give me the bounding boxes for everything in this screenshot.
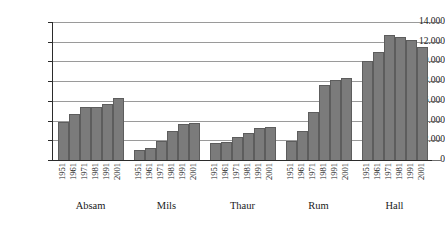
bar	[167, 131, 178, 160]
bar	[91, 107, 102, 160]
bar-group-rum	[286, 22, 352, 160]
bar	[330, 80, 341, 160]
bars	[286, 22, 352, 160]
bar	[58, 122, 69, 160]
bar	[406, 40, 417, 160]
x-axis-tick-label: 1991	[406, 163, 417, 197]
x-axis-tick-label: 1951	[210, 163, 221, 197]
bar	[341, 78, 352, 160]
bar	[113, 98, 124, 160]
x-axis-tick-label: 1951	[134, 163, 145, 197]
y-axis-line	[52, 22, 53, 161]
x-axis-line	[52, 160, 432, 161]
group-label-rum: Rum	[286, 200, 352, 211]
bar	[80, 107, 91, 160]
bar	[384, 35, 395, 160]
x-axis-tick-label: 1971	[232, 163, 243, 197]
x-axis-tick-label: 1981	[243, 163, 254, 197]
bars	[210, 22, 276, 160]
bar	[156, 141, 167, 160]
bar	[69, 114, 80, 160]
x-axis-tick-label: 1991	[254, 163, 265, 197]
x-axis-tick-label: 1981	[319, 163, 330, 197]
gridline-stub	[432, 140, 441, 141]
x-axis-tick-labels: 195119611971198119912001	[134, 163, 200, 197]
bar-group-hall	[362, 22, 428, 160]
bar	[265, 127, 276, 161]
x-axis-tick-label: 1961	[145, 163, 156, 197]
bar	[221, 142, 232, 160]
gridline-stub	[432, 22, 441, 23]
bar	[102, 104, 113, 160]
group-label-hall: Hall	[362, 200, 428, 211]
gridline-stub	[432, 61, 441, 62]
x-axis-tick-label: 1951	[286, 163, 297, 197]
bar	[319, 85, 330, 160]
x-axis-tick-label: 1971	[156, 163, 167, 197]
bar	[362, 61, 373, 160]
bar	[417, 47, 428, 160]
bar	[232, 137, 243, 160]
x-axis-tick-label: 1991	[102, 163, 113, 197]
group-label-absam: Absam	[58, 200, 124, 211]
x-axis-tick-labels: 195119611971198119912001	[286, 163, 352, 197]
x-axis-tick-label: 1971	[308, 163, 319, 197]
x-axis-tick-label: 2001	[113, 163, 124, 197]
x-axis-tick-label: 1981	[91, 163, 102, 197]
clipped-footer-artifact	[0, 222, 445, 226]
bar	[243, 133, 254, 160]
x-axis-tick-labels: 195119611971198119912001	[210, 163, 276, 197]
bar	[373, 52, 384, 160]
x-axis-tick-label: 1951	[58, 163, 69, 197]
bar-group-absam	[58, 22, 124, 160]
x-axis-tick-label: 1981	[395, 163, 406, 197]
bar	[210, 143, 221, 160]
gridline-stub	[432, 42, 441, 43]
x-axis-tick-label: 1971	[80, 163, 91, 197]
x-axis-tick-label: 1961	[297, 163, 308, 197]
x-axis-tick-label: 1961	[373, 163, 384, 197]
x-axis-tick-labels: 195119611971198119912001	[362, 163, 428, 197]
x-axis-tick-label: 1991	[178, 163, 189, 197]
bar	[286, 141, 297, 160]
bars	[362, 22, 428, 160]
bars	[134, 22, 200, 160]
bar	[189, 123, 200, 160]
bars	[58, 22, 124, 160]
x-axis-tick-label: 2001	[189, 163, 200, 197]
x-axis-tick-label: 1961	[221, 163, 232, 197]
group-label-thaur: Thaur	[210, 200, 276, 211]
bar	[145, 148, 156, 160]
bar	[254, 128, 265, 160]
bar-group-thaur	[210, 22, 276, 160]
bar	[134, 150, 145, 160]
x-axis-tick-label: 2001	[341, 163, 352, 197]
x-axis-tick-label: 1971	[384, 163, 395, 197]
bar	[395, 37, 406, 160]
gridline-stub	[432, 121, 441, 122]
x-axis-tick-label: 2001	[417, 163, 428, 197]
bar-group-mils	[134, 22, 200, 160]
x-axis-tick-label: 1991	[330, 163, 341, 197]
group-label-mils: Mils	[134, 200, 200, 211]
bar-chart: 02.0004.0006.0008.00010.00012.00014.000 …	[0, 0, 445, 226]
x-axis-tick-label: 1951	[362, 163, 373, 197]
x-axis-tick-label: 1961	[69, 163, 80, 197]
gridline-stub	[432, 101, 441, 102]
bar	[178, 124, 189, 160]
bar	[297, 131, 308, 160]
gridline-stub	[432, 81, 441, 82]
x-axis-tick-labels: 195119611971198119912001	[58, 163, 124, 197]
x-axis-tick-label: 2001	[265, 163, 276, 197]
bar	[308, 112, 319, 160]
x-axis-tick-label: 1981	[167, 163, 178, 197]
gridline-stub	[432, 160, 441, 161]
